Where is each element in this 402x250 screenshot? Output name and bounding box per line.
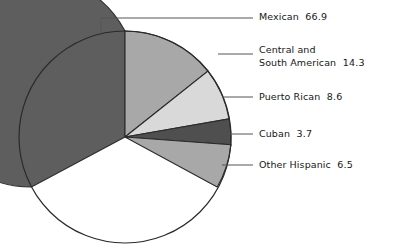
- slice-label-central-line1: Central and: [259, 44, 316, 55]
- pie-chart-figure: Mexican 66.9 Central andSouth American 1…: [0, 0, 402, 250]
- pie-chart-canvas: [0, 0, 402, 250]
- slice-label-other-hispanic: Other Hispanic 6.5: [259, 159, 353, 172]
- slice-label-puerto-rican: Puerto Rican 8.6: [259, 91, 343, 104]
- slice-label-cuban: Cuban 3.7: [259, 128, 312, 141]
- slice-value-puerto-rican: 8.6: [327, 91, 343, 102]
- slice-label-cuban-name: Cuban: [259, 128, 290, 139]
- slice-label-puerto-rican-name: Puerto Rican: [259, 91, 320, 102]
- pie-slice-other-hispanic: [125, 137, 231, 187]
- slice-value-central-south-american: 14.3: [343, 57, 365, 68]
- slice-value-other-hispanic: 6.5: [337, 159, 353, 170]
- slice-label-central-line2: South American: [259, 57, 336, 68]
- slice-value-cuban: 3.7: [296, 128, 312, 139]
- slice-value-mexican: 66.9: [305, 11, 327, 22]
- slice-label-other-hispanic-name: Other Hispanic: [259, 159, 331, 170]
- slice-label-central-south-american: Central andSouth American 14.3: [259, 44, 365, 69]
- slice-label-mexican: Mexican 66.9: [259, 11, 327, 24]
- pie-slice-mexican: [0, 0, 125, 187]
- slice-label-mexican-name: Mexican: [259, 11, 299, 22]
